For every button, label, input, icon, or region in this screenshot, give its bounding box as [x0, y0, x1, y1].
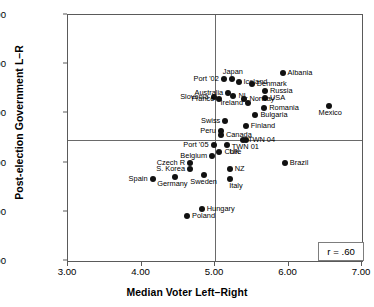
x-axis-tick-label: 4.00: [131, 266, 150, 277]
data-point: [221, 76, 227, 82]
data-point: [218, 132, 224, 138]
data-point: [211, 142, 217, 148]
y-axis-tick-mark: [63, 210, 67, 211]
data-point-label: France: [191, 95, 214, 103]
y-axis-tick-label: 0.00: [0, 255, 6, 266]
data-point-label: Ireland: [220, 99, 243, 107]
data-point-label: S. Korea: [156, 165, 185, 173]
data-point: [252, 112, 258, 118]
y-axis-tick-mark: [63, 161, 67, 162]
x-axis-tick-label: 7.00: [352, 266, 371, 277]
data-point: [229, 76, 235, 82]
data-point-label: Spain: [129, 175, 148, 183]
data-point-label: Finland: [251, 122, 275, 130]
data-point-label: Brazil: [290, 159, 308, 167]
data-point: [280, 70, 286, 76]
data-point-label: NZ: [235, 165, 245, 173]
data-point-label: Peru: [200, 127, 216, 135]
y-axis-tick-label: 4.00: [0, 156, 6, 167]
data-point-label: Italy: [229, 182, 243, 190]
data-point-label: Albania: [288, 69, 313, 77]
data-point-label: Mexico: [319, 109, 342, 117]
data-point: [249, 81, 255, 87]
data-point: [243, 123, 249, 129]
y-axis-tick-mark: [63, 14, 67, 15]
y-axis-tick-label: 6.00: [0, 107, 6, 118]
y-axis-tick-mark: [63, 260, 67, 261]
data-point: [184, 213, 190, 219]
data-point: [262, 88, 268, 94]
x-axis-tick-label: 3.00: [58, 266, 77, 277]
x-axis-tick-mark: [67, 262, 68, 266]
data-point: [222, 118, 228, 124]
data-point-label: Germany: [157, 180, 187, 188]
y-axis-tick-mark: [63, 63, 67, 64]
x-axis-tick-mark: [288, 262, 289, 266]
data-point: [187, 166, 193, 172]
data-point-label: Chile: [224, 148, 241, 156]
data-point: [245, 100, 251, 106]
data-point: [150, 176, 156, 182]
data-point-label: Port '05: [183, 141, 208, 149]
x-axis-title: Median Voter Left–Right: [0, 287, 374, 298]
data-point-label: Poland: [192, 212, 215, 220]
data-point: [209, 153, 215, 159]
data-point-label: Bulgaria: [260, 111, 287, 119]
data-point-label: Swiss: [201, 117, 220, 125]
x-axis-tick-mark: [214, 262, 215, 266]
data-point-label: Sweden: [190, 178, 217, 186]
plot-area: AlbaniaJapanIcelandPort '02DenmarkRussia…: [68, 15, 362, 261]
y-axis-tick-label: 8.00: [0, 58, 6, 69]
x-axis-tick-label: 5.00: [205, 266, 224, 277]
data-point-label: Port '02: [194, 75, 219, 83]
y-axis-tick-label: 10.00: [0, 9, 6, 20]
correlation-box: r = .60: [318, 242, 363, 261]
x-axis-tick-mark: [361, 262, 362, 266]
data-point-label: Japan: [223, 68, 243, 76]
y-axis-tick-mark: [63, 112, 67, 113]
reference-line-vertical: [215, 15, 216, 261]
x-axis-tick-mark: [141, 262, 142, 266]
y-axis-title: Post-election Government L–R: [14, 8, 25, 238]
data-point: [236, 79, 242, 85]
data-point: [282, 160, 288, 166]
data-point-label: Norway: [249, 95, 274, 103]
data-point: [187, 160, 193, 166]
data-point: [227, 166, 233, 172]
x-axis-tick-label: 6.00: [278, 266, 297, 277]
plot-frame: AlbaniaJapanIcelandPort '02DenmarkRussia…: [67, 14, 363, 262]
data-point: [216, 149, 222, 155]
y-axis-tick-label: 2.00: [0, 205, 6, 216]
scatter-plot-figure: AlbaniaJapanIcelandPort '02DenmarkRussia…: [0, 0, 374, 307]
